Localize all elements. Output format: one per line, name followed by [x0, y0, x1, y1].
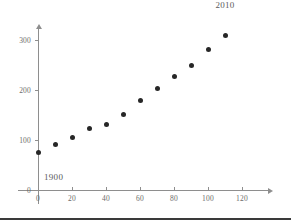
y-axis-arrow: [36, 24, 42, 29]
y-axis-tick-label: 0: [6, 186, 31, 195]
scatter-plot: 020406080100120010020030019002010: [0, 0, 291, 220]
x-axis-tick-label: 80: [170, 194, 178, 203]
x-axis-tick-label: 60: [136, 194, 144, 203]
data-point: [87, 126, 92, 131]
data-point: [121, 112, 126, 117]
data-point: [36, 150, 41, 155]
x-axis-tick: [242, 187, 243, 190]
x-axis-arrow: [268, 188, 273, 194]
x-axis-line: [18, 190, 268, 191]
data-point: [104, 122, 109, 127]
bottom-divider: [0, 218, 291, 220]
data-point-annotation: 1900: [44, 172, 63, 182]
data-point: [189, 63, 194, 68]
x-axis-tick-label: 0: [36, 194, 40, 203]
y-axis-tick-label: 200: [6, 86, 31, 95]
data-point: [70, 135, 75, 140]
data-point: [138, 98, 143, 103]
x-axis-tick-label: 100: [202, 194, 214, 203]
data-point: [223, 33, 228, 38]
data-point: [53, 142, 58, 147]
x-axis-tick-label: 20: [68, 194, 76, 203]
y-axis-tick-label: 100: [6, 136, 31, 145]
data-point: [206, 47, 211, 52]
y-axis-tick: [35, 90, 39, 91]
x-axis-tick: [140, 187, 141, 190]
x-axis-tick: [106, 187, 107, 190]
x-axis-tick: [174, 187, 175, 190]
chart-page: 020406080100120010020030019002010: [0, 0, 291, 220]
x-axis-tick-label: 40: [102, 194, 110, 203]
y-axis-tick: [35, 190, 39, 191]
data-point-annotation: 2010: [215, 0, 234, 10]
x-axis-tick-label: 120: [236, 194, 248, 203]
x-axis-tick: [208, 187, 209, 190]
y-axis-tick-label: 300: [6, 36, 31, 45]
data-point: [172, 74, 177, 79]
y-axis-line: [38, 29, 39, 204]
x-axis-tick: [72, 187, 73, 190]
y-axis-tick: [35, 140, 39, 141]
y-axis-tick: [35, 40, 39, 41]
data-point: [155, 86, 160, 91]
